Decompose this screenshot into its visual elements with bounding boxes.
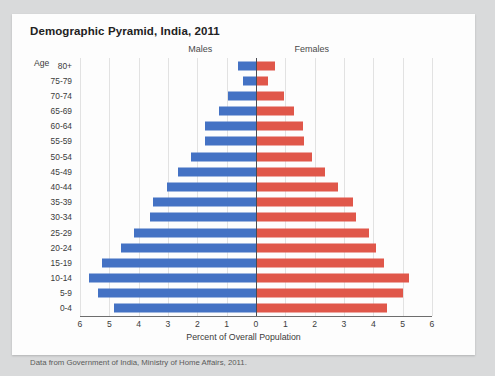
gridline-6 [432,58,433,316]
x-tick-label: 6 [78,319,83,329]
legend-item-males: Males [188,44,212,54]
bar-female [256,91,284,100]
x-tick-label: 2 [195,319,200,329]
age-group-label: 70-74 [51,91,72,101]
bar-female [256,243,376,252]
bar-female [256,107,294,116]
x-tick-label: 1 [283,319,288,329]
x-tick-label: 1 [224,319,229,329]
bar-female [256,152,312,161]
x-tick-label: 3 [342,319,347,329]
x-tick-label: 0 [254,319,259,329]
bar-female [256,289,403,298]
bar-male [98,289,256,298]
age-group-label: 30-34 [51,212,72,222]
x-axis-label: Percent of Overall Population [12,332,475,342]
bar-female [256,258,384,267]
bar-female [256,167,325,176]
source-note: Data from Government of India, Ministry … [30,358,247,367]
bar-male [205,122,256,131]
bar-male [102,258,256,267]
bar-male [121,243,256,252]
age-group-label: 55-59 [51,136,72,146]
chart-plot-area: 80+75-7970-7465-6960-6455-5950-5445-4940… [80,58,432,316]
x-tick-label: 4 [136,319,141,329]
age-group-label: 20-24 [51,243,72,253]
bar-male [153,198,256,207]
bar-female [256,76,268,85]
bar-male [243,76,256,85]
bar-male [191,152,256,161]
bar-female [256,137,304,146]
bar-female [256,228,369,237]
age-group-label: 60-64 [51,121,72,131]
bar-male [89,274,256,283]
x-tick-label: 2 [312,319,317,329]
bar-male [167,182,256,191]
age-group-label: 35-39 [51,197,72,207]
age-group-label: 15-19 [51,258,72,268]
age-group-label: 0-4 [60,303,72,313]
bar-male [178,167,256,176]
bar-female [256,122,303,131]
bar-male [134,228,256,237]
age-group-label: 65-69 [51,106,72,116]
bar-male [205,137,256,146]
bar-female [256,274,409,283]
age-axis-caption: Age [34,58,49,68]
bar-female [256,198,353,207]
age-group-label: 25-29 [51,228,72,238]
age-group-label: 50-54 [51,152,72,162]
age-group-label: 75-79 [51,76,72,86]
age-group-label: 40-44 [51,182,72,192]
bar-female [256,304,387,313]
x-tick-label: 5 [400,319,405,329]
bar-male [238,61,256,70]
x-tick-label: 6 [430,319,435,329]
x-tick-label: 5 [107,319,112,329]
legend-item-females: Females [294,44,329,54]
age-group-label: 10-14 [51,273,72,283]
bar-female [256,182,338,191]
bar-female [256,61,275,70]
age-group-label: 80+ [58,61,72,71]
center-axis-line [256,58,257,316]
x-axis-line [80,316,432,317]
age-group-label: 5-9 [60,288,72,298]
x-tick-label: 3 [166,319,171,329]
age-group-label: 45-49 [51,167,72,177]
bar-male [219,107,256,116]
x-tick-label: 4 [371,319,376,329]
page-title: Demographic Pyramid, India, 2011 [30,25,220,37]
bar-male [114,304,256,313]
bar-male [228,91,256,100]
bar-male [150,213,256,222]
bar-female [256,213,356,222]
chart-card: Demographic Pyramid, India, 2011 Age Mal… [12,14,475,355]
